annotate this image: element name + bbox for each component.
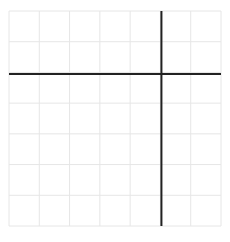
grid <box>9 11 221 226</box>
axes <box>9 11 221 226</box>
coordinate-plane <box>0 0 230 242</box>
